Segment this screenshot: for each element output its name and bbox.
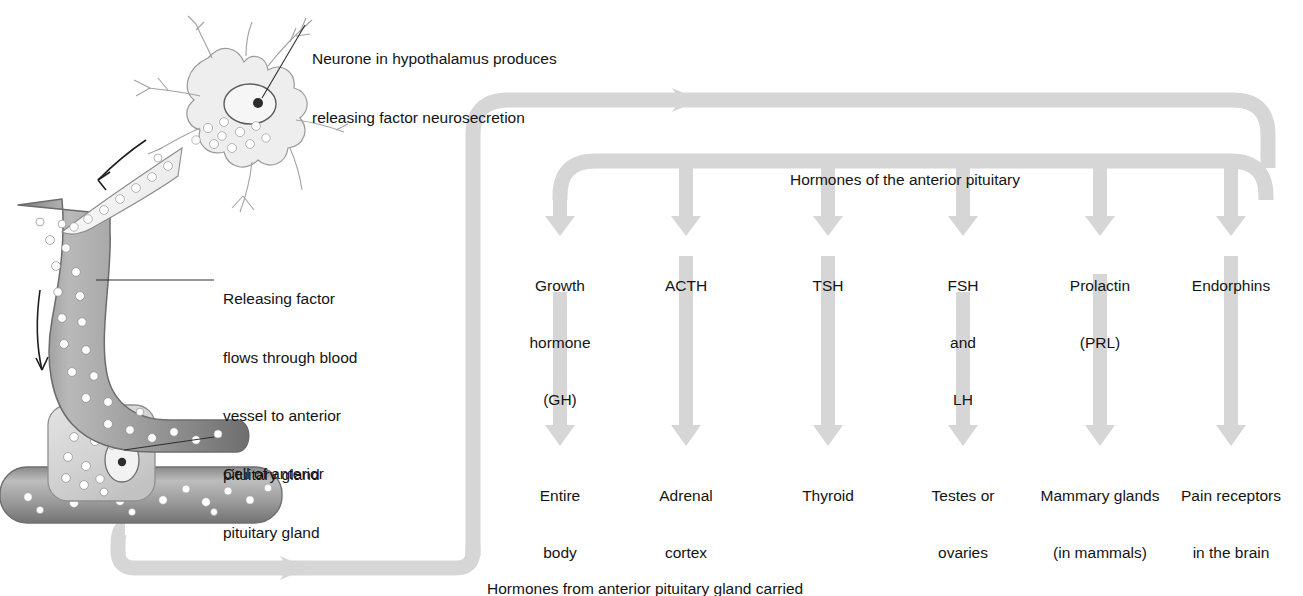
target-label-gonads: Testes or ovaries <box>932 448 995 596</box>
neurone-axon <box>62 148 182 234</box>
target-label-adrenal-cortex: Adrenal cortex <box>659 448 712 596</box>
target-label-entire-body: Entire body <box>540 448 581 596</box>
hormone-endorphins-line-1: Endorphins <box>1192 276 1270 295</box>
neurone-callout-line-1: Neurone in hypothalamus produces <box>312 49 557 69</box>
hormone-label-prolactin: Prolactin (PRL) <box>1070 238 1130 390</box>
hormone-tsh-line-1: TSH <box>813 276 844 295</box>
pituitary-cell-callout: Cell of anterior pituitary gland <box>223 425 324 581</box>
target-entire-body-line-2: body <box>540 543 581 562</box>
hormone-fsh-line-1: FSH <box>948 276 979 295</box>
hormone-fsh-line-3: LH <box>948 390 979 409</box>
hormone-fsh-line-2: and <box>948 333 979 352</box>
neurone-nucleus <box>224 84 276 124</box>
hormone-label-endorphins: Endorphins <box>1192 238 1270 333</box>
blood-flow-down-arrow <box>36 290 48 370</box>
neurone-callout-line-2: releasing factor neurosecretion <box>312 108 557 128</box>
hormone-label-fsh-lh: FSH and LH <box>948 238 979 447</box>
hormone-prolactin-line-1: Prolactin <box>1070 276 1130 295</box>
target-gonads-line-2: ovaries <box>932 543 995 562</box>
releasing-factor-line-1: Releasing factor <box>223 289 357 309</box>
target-label-thyroid: Thyroid <box>802 448 854 543</box>
target-label-pain-receptors: Pain receptors in the brain <box>1181 448 1281 596</box>
target-mammary-line-1: Mammary glands <box>1041 486 1160 505</box>
target-thyroid-line-1: Thyroid <box>802 486 854 505</box>
target-label-mammary-glands: Mammary glands (in mammals) <box>1041 448 1160 596</box>
diagram-canvas: Neurone in hypothalamus produces releasi… <box>0 0 1303 596</box>
hormone-growth-line-3: (GH) <box>529 390 590 409</box>
target-pain-line-2: in the brain <box>1181 543 1281 562</box>
target-adrenal-line-2: cortex <box>659 543 712 562</box>
section-label: Hormones of the anterior pituitary <box>790 170 1020 189</box>
hormone-prolactin-line-2: (PRL) <box>1070 333 1130 352</box>
pituitary-cell-line-2: pituitary gland <box>223 523 324 543</box>
target-mammary-line-2: (in mammals) <box>1041 543 1160 562</box>
target-gonads-line-1: Testes or <box>932 486 995 505</box>
hormone-growth-line-1: Growth <box>529 276 590 295</box>
releasing-factor-line-3: vessel to anterior <box>223 406 357 426</box>
hormone-acth-line-1: ACTH <box>665 276 707 295</box>
hormone-label-tsh: TSH <box>813 238 844 333</box>
pituitary-cell-line-1: Cell of anterior <box>223 464 324 484</box>
target-entire-body-line-1: Entire <box>540 486 581 505</box>
releasing-factor-line-2: flows through blood <box>223 348 357 368</box>
bloodstream-line-1: Hormones from anterior pituitary gland c… <box>487 579 803 596</box>
target-adrenal-line-1: Adrenal <box>659 486 712 505</box>
target-pain-line-1: Pain receptors <box>1181 486 1281 505</box>
bloodstream-callout: Hormones from anterior pituitary gland c… <box>487 540 803 596</box>
hormone-label-growth-hormone: Growth hormone (GH) <box>529 238 590 447</box>
hormone-label-acth: ACTH <box>665 238 707 333</box>
hormone-growth-line-2: hormone <box>529 333 590 352</box>
neurone-callout: Neurone in hypothalamus produces releasi… <box>312 10 557 166</box>
